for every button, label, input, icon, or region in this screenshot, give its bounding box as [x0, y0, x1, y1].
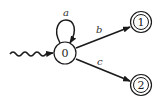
state-label: 2: [138, 79, 145, 92]
transition-label-c: c: [97, 56, 103, 67]
transition-label-b: b: [96, 24, 102, 35]
transition-0-2: c: [76, 56, 130, 81]
state-0: 0: [54, 42, 76, 64]
transition-0-0: a: [57, 7, 75, 43]
transition-0-1: b: [76, 24, 130, 48]
state-label: 0: [62, 47, 69, 60]
state-1: 1: [131, 12, 152, 33]
state-label: 1: [138, 16, 145, 29]
transition-label-a: a: [63, 7, 69, 18]
state-2: 2: [131, 75, 152, 96]
initial-arrow: [10, 52, 53, 56]
automaton-diagram: a b c 0 1 2: [0, 0, 163, 104]
